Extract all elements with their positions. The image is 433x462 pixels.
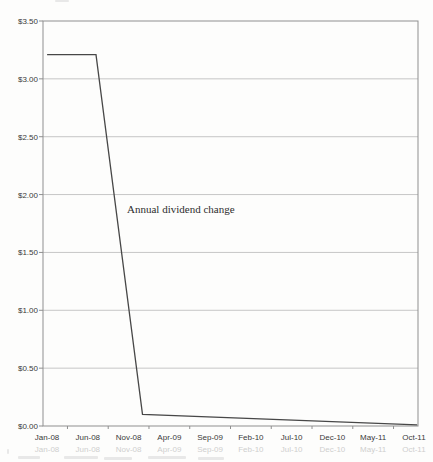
scan-bleed-artifact bbox=[64, 456, 98, 459]
x-tick-label: Nov-08 bbox=[116, 433, 142, 442]
x-tick-label-ghost-echo: Jul-10 bbox=[281, 445, 303, 454]
dividend-change-chart: $3.50$3.00$2.50$2.00$1.50$1.00$0.50$0.00… bbox=[0, 0, 433, 462]
x-tick-label: May-11 bbox=[360, 433, 387, 442]
y-tick-label: $3.50 bbox=[18, 17, 39, 26]
y-tick-label: $2.00 bbox=[18, 191, 39, 200]
x-tick-label-ghost-echo: May-11 bbox=[360, 445, 387, 454]
x-tick-label-ghost-echo: Oct-11 bbox=[402, 445, 426, 454]
scan-bleed-artifact bbox=[55, 0, 69, 2]
x-tick-label-ghost-echo: Feb-10 bbox=[238, 445, 264, 454]
x-tick-label: Jun-08 bbox=[76, 433, 101, 442]
x-tick-label-ghost-echo: Jun-08 bbox=[76, 445, 101, 454]
x-tick-label: Dec-10 bbox=[320, 433, 346, 442]
x-tick-label-ghost-echo: Sep-09 bbox=[197, 445, 223, 454]
x-tick-label-ghost-echo: Apr-09 bbox=[157, 445, 182, 454]
series-line-annual-dividend bbox=[47, 55, 417, 425]
y-tick-label: $0.00 bbox=[18, 422, 39, 431]
chart-plot-area: $3.50$3.00$2.50$2.00$1.50$1.00$0.50$0.00… bbox=[0, 0, 433, 462]
x-tick-label: Jan-08 bbox=[35, 433, 60, 442]
x-tick-label-ghost-echo: Jan-08 bbox=[35, 445, 60, 454]
scan-bleed-artifact bbox=[104, 457, 132, 460]
x-tick-label: Apr-09 bbox=[157, 433, 182, 442]
y-tick-label: $1.50 bbox=[18, 248, 39, 257]
scan-bleed-artifact bbox=[7, 449, 9, 454]
x-tick-label: Sep-09 bbox=[197, 433, 223, 442]
y-tick-label: $2.50 bbox=[18, 133, 39, 142]
scan-bleed-artifact bbox=[18, 456, 40, 459]
scan-bleed-artifact bbox=[198, 457, 224, 460]
x-tick-label: Oct-11 bbox=[402, 433, 426, 442]
x-tick-label-ghost-echo: Dec-10 bbox=[320, 445, 346, 454]
y-tick-label: $0.50 bbox=[18, 364, 39, 373]
x-tick-label: Jul-10 bbox=[281, 433, 303, 442]
y-tick-label: $1.00 bbox=[18, 306, 39, 315]
x-tick-label-ghost-echo: Nov-08 bbox=[116, 445, 142, 454]
series-annotation-label: Annual dividend change bbox=[127, 203, 235, 215]
x-tick-label: Feb-10 bbox=[238, 433, 264, 442]
scan-bleed-artifact bbox=[148, 456, 186, 459]
y-tick-label: $3.00 bbox=[18, 75, 39, 84]
